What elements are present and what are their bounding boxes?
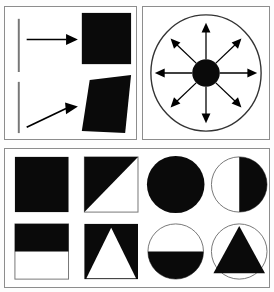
diagonal-up-right-arrow-head [65, 103, 78, 115]
black-parallelogram-shape [82, 75, 131, 133]
tile-square-diagonal-half [84, 157, 138, 212]
radial-arrows-panel [142, 6, 270, 140]
figure-root [0, 0, 274, 292]
tile-circle-bottom-half [148, 224, 204, 279]
center-filled-disc [192, 59, 220, 87]
tile-square-white-triangle [84, 224, 138, 279]
tile-square-top-half [15, 224, 69, 279]
radial-arrows-graphic [143, 7, 269, 139]
shape-grid-graphic [5, 149, 269, 287]
tile-circle-solid [147, 156, 205, 213]
tile-circle-right-half [211, 157, 267, 212]
tile-square-solid [15, 157, 69, 212]
arrow-transform-graphic [5, 7, 136, 139]
horizontal-right-arrow-head [66, 34, 78, 45]
diagonal-up-right-arrow-shaft [27, 108, 66, 127]
black-square-shape [82, 13, 131, 64]
arrow-transform-panel [4, 6, 137, 140]
shape-grid-panel [4, 148, 270, 288]
tile-circle-black-triangle [211, 224, 267, 279]
